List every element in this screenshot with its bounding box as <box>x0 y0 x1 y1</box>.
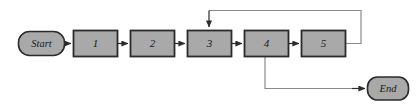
node-step5[interactable]: 5 <box>302 31 346 57</box>
node-step2[interactable]: 2 <box>131 31 175 57</box>
node-end[interactable]: End <box>368 77 409 100</box>
node-start[interactable]: Start <box>19 32 65 56</box>
flowchart-diagram: Start 1 2 3 4 5 End <box>0 0 417 107</box>
step3-label: 3 <box>206 37 213 49</box>
connector-4-to-end <box>265 57 365 89</box>
node-step3[interactable]: 3 <box>188 31 232 57</box>
node-step4[interactable]: 4 <box>245 31 289 57</box>
start-label: Start <box>31 38 53 49</box>
step1-label: 1 <box>93 37 99 49</box>
step5-label: 5 <box>321 37 327 49</box>
step2-label: 2 <box>150 37 156 49</box>
step4-label: 4 <box>264 37 270 49</box>
node-step1[interactable]: 1 <box>74 31 118 57</box>
end-label: End <box>379 83 398 94</box>
flowchart-canvas: Start 1 2 3 4 5 End <box>0 0 417 107</box>
